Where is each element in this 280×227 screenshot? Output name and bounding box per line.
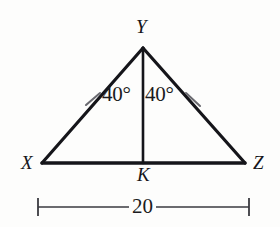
vertex-label-z: Z <box>253 153 264 172</box>
angle-label-kyz: 40° <box>145 84 174 105</box>
vertex-label-k: K <box>137 165 150 184</box>
vertex-label-x: X <box>21 153 33 172</box>
vertex-label-y: Y <box>136 17 147 36</box>
dimension-label: 20 <box>129 196 156 217</box>
angle-label-xyk: 40° <box>102 84 131 105</box>
geometry-figure: Y X Z K 40° 40° 20 <box>0 0 280 227</box>
